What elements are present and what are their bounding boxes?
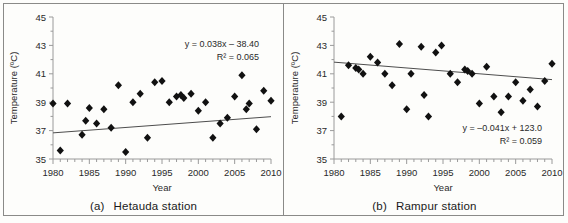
data-point-marker [158,77,165,85]
trend-equation-label: y = –0.041x + 123.0 [462,123,542,133]
data-point-marker [527,85,534,93]
x-tick-label: 2000 [469,167,490,178]
figure-container: 3537394143451980198519901995200020052010… [0,0,568,223]
x-axis-title: Year [152,182,171,193]
y-tick-label: 35 [35,154,46,165]
data-point-marker [253,125,260,133]
data-point-marker [108,124,115,132]
data-point-marker [57,146,64,154]
y-tick-label: 45 [35,12,46,23]
data-point-marker [122,148,129,156]
data-point-marker [476,100,483,108]
data-point-marker [260,87,267,95]
data-point-marker [93,120,100,128]
data-point-marker [78,131,85,139]
panel-label-b: (b) [372,200,387,212]
data-point-marker [115,81,122,89]
panel-label-a: (a) [90,200,105,212]
y-tick-label: 41 [316,68,327,79]
x-tick-label: 2005 [224,167,245,178]
x-tick-label: 2005 [505,167,526,178]
data-point-marker [548,60,555,68]
data-point-marker [438,41,445,49]
data-point-marker [49,100,56,108]
data-point-marker [187,90,194,98]
r-squared-label: R² = 0.065 [217,52,259,62]
data-point-marker [534,102,541,110]
panel-hetauda: 3537394143451980198519901995200020052010… [3,3,284,216]
data-point-marker [224,114,231,122]
y-tick-label: 39 [35,97,46,108]
y-tick-label: 45 [316,12,327,23]
data-point-marker [202,98,209,106]
x-tick-label: 1980 [42,167,63,178]
x-tick-label: 1985 [360,167,381,178]
data-point-marker [129,98,136,106]
y-axis-title: Temperature (ºC) [8,52,19,125]
y-tick-label: 41 [35,68,46,79]
data-point-marker [100,105,107,113]
x-tick-label: 1980 [323,167,344,178]
data-point-marker [403,105,410,113]
data-point-marker [421,91,428,99]
panel-caption-rampur: (b)Rampur station [284,200,565,212]
y-tick-label: 43 [35,40,46,51]
panel-title-a: Hetauda station [114,200,198,212]
data-point-marker [418,43,425,51]
x-axis-title: Year [433,182,452,193]
data-point-marker [82,117,89,125]
data-point-marker [137,90,144,98]
data-point-marker [541,77,548,85]
data-point-marker [425,112,432,120]
data-point-marker [64,100,71,108]
y-tick-label: 39 [316,97,327,108]
x-tick-label: 1985 [79,167,100,178]
y-axis-title: Temperature (ºC) [289,52,300,125]
data-point-marker [144,134,151,142]
r-squared-label: R² = 0.059 [500,136,542,146]
y-tick-label: 37 [35,125,46,136]
data-point-marker [231,93,238,101]
x-tick-label: 1995 [151,167,172,178]
scatter-chart-rampur: 3537394143451980198519901995200020052010… [284,3,565,193]
x-tick-label: 1995 [432,167,453,178]
data-point-marker [396,40,403,48]
data-point-marker [151,78,158,86]
data-point-marker [498,108,505,116]
data-point-marker [345,61,352,69]
data-point-marker [166,98,173,106]
data-point-marker [209,134,216,142]
data-point-marker [381,70,388,78]
data-point-marker [512,78,519,86]
x-tick-label: 1990 [396,167,417,178]
data-point-marker [238,71,245,79]
y-tick-label: 43 [316,40,327,51]
scatter-chart-hetauda: 3537394143451980198519901995200020052010… [3,3,284,193]
trend-equation-label: y = 0.038x – 38.40 [185,39,259,49]
y-tick-label: 37 [316,125,327,136]
data-point-marker [407,70,414,78]
data-point-marker [490,93,497,101]
data-point-marker [389,81,396,89]
data-point-marker [483,63,490,71]
data-point-marker [267,97,274,105]
trend-line [334,62,552,79]
x-tick-label: 2010 [260,167,281,178]
data-point-marker [86,104,93,112]
data-point-marker [195,107,202,115]
panel-caption-hetauda: (a)Hetauda station [3,200,284,212]
data-point-marker [519,97,526,105]
panel-title-b: Rampur station [396,200,477,212]
data-point-marker [505,93,512,101]
x-tick-label: 2010 [541,167,562,178]
panel-rampur: 3537394143451980198519901995200020052010… [284,3,565,216]
data-point-marker [367,53,374,61]
x-tick-label: 1990 [115,167,136,178]
x-tick-label: 2000 [188,167,209,178]
data-point-marker [338,112,345,120]
data-point-marker [454,78,461,86]
data-point-marker [432,49,439,57]
y-tick-label: 35 [316,154,327,165]
